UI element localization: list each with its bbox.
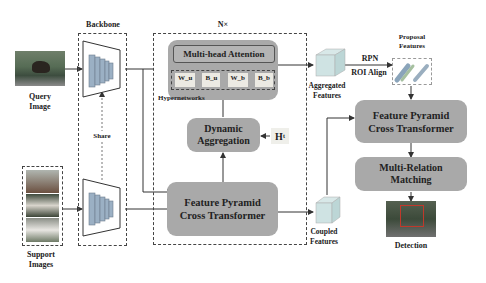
proposal-features-label: Proposal Features bbox=[390, 33, 434, 51]
proposal-features-frame bbox=[392, 58, 432, 85]
support-image-2 bbox=[26, 194, 59, 217]
support-images-label: Support Images bbox=[15, 250, 67, 270]
multi-relation-matching: Multi-Relation Matching bbox=[355, 157, 467, 191]
support-image-1 bbox=[26, 170, 59, 193]
backbone-label: Backbone bbox=[78, 20, 128, 30]
share-label: Share bbox=[90, 131, 114, 141]
repeat-count-label: N× bbox=[205, 20, 241, 30]
coupled-features-label: Coupled Features bbox=[302, 227, 346, 247]
param-b-u: B_u bbox=[202, 73, 220, 87]
hypernetwork-params: W_u B_u W_b B_b bbox=[175, 73, 273, 87]
detection-image bbox=[386, 201, 436, 237]
horse-silhouette bbox=[32, 61, 50, 73]
hypernetworks-label: Hypernetworks bbox=[158, 93, 218, 103]
aggregated-features-label: Aggregated Features bbox=[302, 81, 352, 101]
feature-pyramid-cross-transformer-left: Feature Pyramid Cross Transformer bbox=[167, 182, 278, 236]
aggregated-features-cube bbox=[316, 49, 345, 76]
detection-label: Detection bbox=[386, 241, 436, 251]
coupled-features-cube bbox=[316, 197, 340, 223]
param-b-b: B_b bbox=[255, 73, 273, 87]
query-image-label: Query Image bbox=[15, 92, 65, 112]
multi-head-attention: Multi-head Attention bbox=[173, 45, 275, 63]
support-image-3 bbox=[26, 218, 59, 242]
query-image bbox=[15, 51, 65, 86]
dynamic-aggregation-block: Dynamic Aggregation bbox=[187, 118, 260, 152]
param-w-u: W_u bbox=[175, 73, 195, 87]
detection-bounding-box bbox=[400, 205, 424, 227]
roi-align-label: ROI Align bbox=[345, 68, 393, 78]
rpn-label: RPN bbox=[355, 54, 385, 64]
feature-pyramid-cross-transformer-right: Feature Pyramid Cross Transformer bbox=[355, 100, 467, 143]
ht-input: Ht bbox=[271, 128, 289, 144]
param-w-b: W_b bbox=[228, 73, 248, 87]
